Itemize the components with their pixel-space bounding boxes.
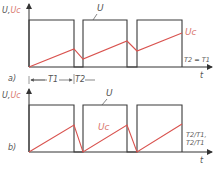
x-axis-label-a: t xyxy=(200,71,203,80)
capacitor-voltage-a xyxy=(29,33,182,67)
interval-t1-label: T1 xyxy=(47,75,59,84)
x-axis-label-b: t xyxy=(200,156,203,165)
y-axis-label-a: U,Uc xyxy=(2,6,21,15)
diagram-canvas xyxy=(0,0,223,173)
wave-label-b: U xyxy=(106,88,113,98)
y-label-uc-a: Uc xyxy=(10,6,20,15)
panel-a xyxy=(29,4,212,84)
square-wave-a xyxy=(29,20,182,67)
panel-b xyxy=(29,89,212,152)
condition-b-left: T2/T1 xyxy=(186,131,204,139)
u-leader-b xyxy=(102,99,107,105)
condition-a: T2 = T1 xyxy=(184,56,210,64)
panel-label-a: a) xyxy=(8,74,16,83)
curve-label-b: Uc xyxy=(98,122,110,132)
curve-label-a: Uc xyxy=(185,27,197,37)
condition-b-sep: , xyxy=(204,131,206,139)
u-leader-a xyxy=(93,14,97,20)
condition-b-right: T2/T1 xyxy=(186,139,204,147)
panel-label-b: b) xyxy=(8,143,16,152)
y-axis-label-b: U,Uc xyxy=(2,91,21,100)
wave-label-a: U xyxy=(97,3,104,13)
condition-b: T2/T1, T2/T1 xyxy=(186,131,223,147)
interval-t2-label: T2 xyxy=(75,75,85,84)
y-label-uc-b: Uc xyxy=(10,91,20,100)
